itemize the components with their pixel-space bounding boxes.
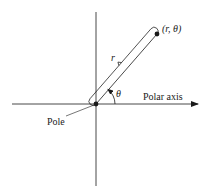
polar-diagram: (r, θ) r θ Polar axis Pole (0, 0, 207, 192)
polar-point (155, 32, 160, 37)
radius-label: r (111, 52, 115, 63)
pole-label: Pole (47, 116, 65, 127)
pole-leader-line (66, 105, 94, 116)
angle-label: θ (116, 88, 121, 99)
pole-point (94, 102, 99, 107)
angle-arc (108, 90, 115, 105)
point-label: (r, θ) (162, 23, 182, 35)
polar-axis-label: Polar axis (143, 91, 183, 102)
